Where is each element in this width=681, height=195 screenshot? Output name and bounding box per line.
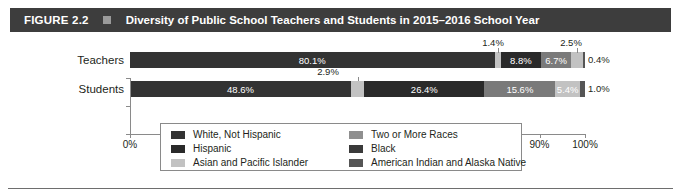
- x-axis-tick-100%: [585, 134, 586, 138]
- callout-leader-students-twoormore: [358, 77, 359, 81]
- legend-swatch-icon-hispanic: [171, 145, 185, 153]
- callout-teachers-asian: 2.5%: [551, 37, 591, 48]
- y-axis-tick-top: [126, 78, 131, 79]
- bar-segment-students-hispanic[interactable]: 26.4%: [364, 81, 484, 97]
- bar-segment-teachers-hispanic[interactable]: 8.8%: [501, 52, 541, 68]
- legend-item-white-not-hispanic[interactable]: White, Not Hispanic: [171, 129, 308, 142]
- bar-segment-students-amerindian[interactable]: [580, 81, 585, 97]
- x-axis-tick-90%: [540, 134, 541, 138]
- legend-swatch-icon-american-indian-and-alaska-native: [349, 159, 363, 167]
- bar-segment-teachers-asian[interactable]: [571, 52, 582, 68]
- x-axis-label-0%: 0%: [123, 139, 137, 150]
- bar-label-students-amerindian: 1.0%: [588, 81, 610, 97]
- callout-leader-teachers-twoormore: [498, 48, 499, 53]
- legend-column-right: Two or More Races Black American Indian …: [349, 129, 526, 171]
- bar-segment-teachers-amerindian[interactable]: [583, 52, 585, 68]
- row-label-students: Students: [40, 82, 124, 97]
- figure-title: Diversity of Public School Teachers and …: [126, 14, 540, 26]
- legend-item-black[interactable]: Black: [349, 143, 526, 156]
- figure-header-bar: FIGURE 2.2 Diversity of Public School Te…: [10, 8, 671, 32]
- y-axis-tick-mid: [126, 106, 131, 107]
- legend-label-american-indian-and-alaska-native: American Indian and Alaska Native: [371, 157, 526, 169]
- bar-label-teachers-amerindian: 0.4%: [588, 52, 610, 68]
- legend-swatch-icon-asian-and-pacific-islander: [171, 159, 185, 167]
- legend-label-asian-and-pacific-islander: Asian and Pacific Islander: [193, 157, 308, 169]
- bar-segment-students-twoormore[interactable]: [351, 81, 364, 97]
- bar-segment-teachers-black[interactable]: 6.7%: [541, 52, 572, 68]
- legend-column-left: White, Not Hispanic Hispanic Asian and P…: [171, 129, 308, 171]
- callout-leader-teachers-asian: [577, 48, 578, 53]
- chart-legend: White, Not Hispanic Hispanic Asian and P…: [160, 123, 522, 171]
- stacked-bar-teachers: 80.1% 8.8% 6.7%: [130, 52, 585, 68]
- legend-label-white-not-hispanic: White, Not Hispanic: [193, 129, 281, 141]
- legend-label-two-or-more-races: Two or More Races: [371, 129, 458, 141]
- bar-segment-students-white[interactable]: 48.6%: [130, 81, 351, 97]
- legend-item-asian-and-pacific-islander[interactable]: Asian and Pacific Islander: [171, 157, 308, 170]
- legend-label-hispanic: Hispanic: [193, 143, 231, 155]
- legend-item-two-or-more-races[interactable]: Two or More Races: [349, 129, 526, 142]
- square-glyph-icon: [103, 16, 111, 24]
- x-axis-label-100%: 100%: [572, 139, 598, 150]
- bar-segment-students-black[interactable]: 15.6%: [484, 81, 555, 97]
- callout-teachers-twoormore: 1.4%: [473, 37, 513, 48]
- chart-row-students: Students 48.6% 26.4% 15.6% 5.4% 1.0%: [0, 81, 681, 97]
- legend-swatch-icon-white-not-hispanic: [171, 131, 185, 139]
- bottom-divider: [8, 188, 673, 189]
- legend-swatch-icon-two-or-more-races: [349, 131, 363, 139]
- bar-segment-students-asian[interactable]: 5.4%: [555, 81, 580, 97]
- legend-label-black: Black: [371, 143, 395, 155]
- callout-students-twoormore: 2.9%: [308, 66, 348, 77]
- x-axis-label-90%: 90%: [529, 139, 549, 150]
- row-label-teachers: Teachers: [40, 53, 124, 68]
- legend-swatch-icon-black: [349, 145, 363, 153]
- legend-item-american-indian-and-alaska-native[interactable]: American Indian and Alaska Native: [349, 157, 526, 170]
- legend-item-hispanic[interactable]: Hispanic: [171, 143, 308, 156]
- chart-plot-area: Teachers 80.1% 8.8% 6.7% 0.4% 1.4% 2.5% …: [0, 38, 681, 118]
- x-axis-tick-0%: [130, 134, 131, 138]
- figure-number: FIGURE 2.2: [24, 14, 89, 26]
- stacked-bar-students: 48.6% 26.4% 15.6% 5.4%: [130, 81, 585, 97]
